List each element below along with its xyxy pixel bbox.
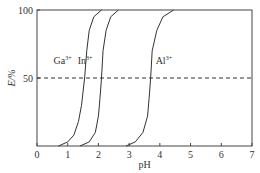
- y-tick-label: 100: [18, 5, 33, 16]
- series-label-in: In3+: [78, 55, 93, 66]
- chart: 0123456750100pHE/%Ga3+In3+Al3+: [0, 0, 260, 173]
- x-tick-label: 3: [127, 149, 132, 160]
- series-label-al: Al3+: [156, 55, 173, 66]
- x-tick-label: 7: [250, 149, 255, 160]
- x-axis-label: pH: [138, 159, 150, 170]
- labels: 0123456750100pHE/%Ga3+In3+Al3+: [6, 5, 255, 171]
- curve-in: [80, 10, 118, 146]
- y-tick-label: 50: [23, 73, 33, 84]
- x-tick-label: 1: [65, 149, 70, 160]
- x-tick-label: 5: [188, 149, 193, 160]
- y-axis-label: E/%: [6, 69, 17, 87]
- x-tick-label: 6: [219, 149, 224, 160]
- x-tick-label: 4: [157, 149, 162, 160]
- x-tick-label: 2: [96, 149, 101, 160]
- series-label-ga: Ga3+: [54, 55, 73, 66]
- x-tick-label: 0: [35, 149, 40, 160]
